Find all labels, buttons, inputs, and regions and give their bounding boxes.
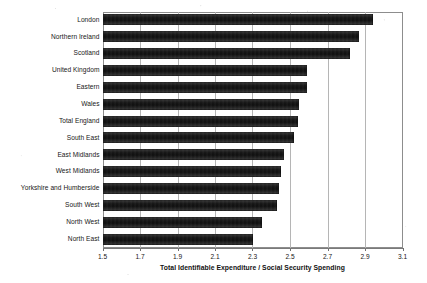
x-tick-label: 1.7	[126, 253, 154, 261]
x-tick-label: 3.1	[389, 253, 417, 261]
x-tick-label: 1.5	[89, 253, 117, 261]
gridline	[252, 12, 253, 248]
category-label: South East	[67, 134, 100, 142]
bar	[103, 82, 307, 93]
gridline	[290, 12, 291, 248]
gridline	[140, 12, 141, 248]
x-tick-label: 1.9	[164, 253, 192, 261]
category-label: Total England	[59, 117, 100, 125]
bar	[103, 200, 277, 211]
bar	[103, 65, 307, 76]
tick-mark	[403, 248, 404, 251]
category-label: Wales	[81, 100, 99, 108]
x-tick-label: 2.5	[276, 253, 304, 261]
x-tick-label: 2.1	[201, 253, 229, 261]
bar	[103, 31, 360, 42]
bar-chart-figure: LondonNorthern IrelandScotlandUnited Kin…	[0, 0, 427, 283]
category-label: East Midlands	[57, 151, 99, 159]
bar	[103, 183, 279, 194]
bar	[103, 217, 262, 228]
category-label: London	[77, 16, 99, 24]
category-label: United Kingdom	[52, 66, 100, 74]
gridline	[328, 12, 329, 248]
category-label: Northern Ireland	[51, 33, 99, 41]
category-label: South West	[65, 201, 99, 209]
bar	[103, 48, 351, 59]
bar	[103, 99, 300, 110]
x-tick-label: 2.9	[351, 253, 379, 261]
bar	[103, 166, 281, 177]
bar	[103, 132, 294, 143]
category-label: Yorkshire and Humberside	[21, 184, 100, 192]
bar	[103, 14, 373, 25]
bar	[103, 149, 285, 160]
category-label: Scotland	[73, 49, 99, 57]
gridline	[365, 12, 366, 248]
gridline	[178, 12, 179, 248]
category-label: North East	[68, 235, 100, 243]
bar	[103, 234, 253, 245]
gridline	[215, 12, 216, 248]
x-tick-label: 2.3	[239, 253, 267, 261]
category-label: West Midlands	[56, 167, 100, 175]
bar	[103, 116, 298, 127]
x-axis-title: Total Identifiable Expenditure / Social …	[103, 264, 403, 271]
category-label: Eastern	[76, 83, 99, 91]
x-tick-label: 2.7	[314, 253, 342, 261]
x-axis-baseline	[103, 248, 403, 249]
category-label: North West	[66, 218, 99, 226]
